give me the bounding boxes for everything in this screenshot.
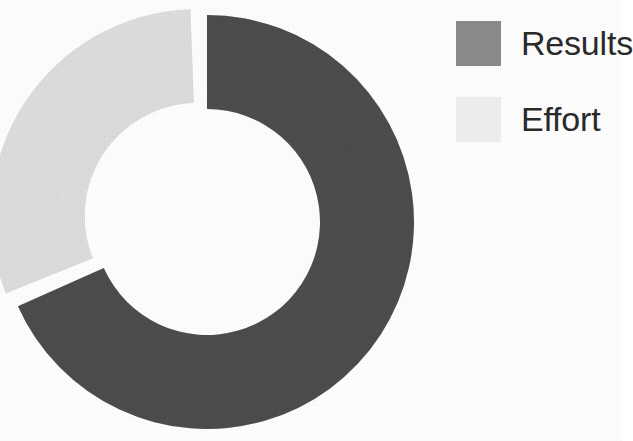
doughnut-chart: [0, 0, 430, 441]
doughnut-chart-svg: [0, 0, 430, 441]
legend-swatch-effort: [456, 97, 501, 142]
legend-item-results[interactable]: Results: [456, 14, 623, 72]
chart-legend: Results Effort: [456, 14, 623, 166]
legend-item-effort[interactable]: Effort: [456, 90, 623, 148]
legend-label-effort: Effort: [521, 102, 600, 136]
legend-swatch-results: [456, 21, 501, 66]
legend-label-results: Results: [521, 26, 633, 60]
